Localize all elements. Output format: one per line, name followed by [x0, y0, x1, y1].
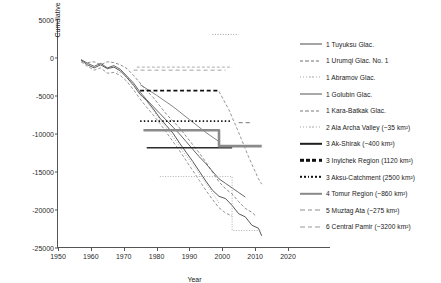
legend-swatch-icon [300, 172, 322, 182]
x-tick-mark [222, 248, 223, 251]
y-axis-title: Cumulative mass balance (mm/we/year) [54, 0, 61, 55]
legend-item-label: 5 Muztag Ata (~275 km²) [326, 207, 400, 214]
legend-item-label: 6 Central Pamir (~3200 km²) [326, 223, 411, 230]
legend-swatch-icon [300, 222, 322, 232]
y-tick-label: -5000 [36, 93, 54, 100]
legend-swatch-icon [300, 139, 322, 149]
chart-series-line [88, 62, 256, 216]
legend-item-label: 4 Tomur Region (~860 km²) [326, 190, 408, 197]
x-tick-label: 1980 [149, 253, 165, 260]
legend-item[interactable]: 1 Kara-Batkak Glac. [300, 102, 440, 119]
y-tick-mark [55, 58, 58, 59]
y-tick-label: -20000 [32, 207, 54, 214]
x-tick-label: 1950 [50, 253, 66, 260]
x-tick-label: 2020 [280, 253, 296, 260]
legend-item-label: 1 Golubin Glac. [326, 91, 372, 98]
chart-extra-path [140, 85, 219, 142]
x-tick-mark [124, 248, 125, 251]
legend-item-label: 3 Aksu-Catchment (2500 km²) [326, 174, 415, 181]
legend-item-label: 3 Ak-Shirak (~400 km²) [326, 140, 395, 147]
series-layer [58, 20, 288, 248]
x-tick-label: 1990 [182, 253, 198, 260]
y-tick-label: 5000 [38, 17, 54, 24]
legend-item[interactable]: 3 Aksu-Catchment (2500 km²) [300, 169, 440, 186]
x-tick-label: 2000 [214, 253, 230, 260]
legend-swatch-icon [300, 89, 322, 99]
legend-item-label: 1 Kara-Batkak Glac. [326, 107, 386, 114]
legend-item-label: 2 Ala Archa Valley (~35 km²) [326, 124, 410, 131]
y-tick-label: 0 [50, 55, 54, 62]
legend-item-label: 1 Tuyuksu Glac. [326, 41, 374, 48]
chart-legend: 1 Tuyuksu Glac.1 Urumqi Glac. No. 11 Abr… [300, 36, 440, 235]
legend-swatch-icon [300, 155, 322, 165]
x-axis-title: Year [58, 276, 331, 283]
y-tick-mark [55, 172, 58, 173]
legend-swatch-icon [300, 205, 322, 215]
chart-series-line [160, 177, 262, 231]
y-tick-label: -10000 [32, 131, 54, 138]
x-tick-label: 2010 [247, 253, 263, 260]
legend-item-label: 3 Inylchek Region (1120 km²) [326, 157, 413, 164]
legend-item[interactable]: 1 Urumqi Glac. No. 1 [300, 53, 440, 70]
legend-item-label: 1 Urumqi Glac. No. 1 [326, 57, 389, 64]
legend-swatch-icon [300, 72, 322, 82]
legend-swatch-icon [300, 56, 322, 66]
x-tick-mark [255, 248, 256, 251]
plot-area: 50000-5000-10000-15000-20000-25000 19501… [58, 20, 288, 248]
x-tick-mark [157, 248, 158, 251]
chart-extra-path [219, 91, 262, 184]
legend-swatch-icon [300, 122, 322, 132]
x-tick-mark [189, 248, 190, 251]
legend-swatch-icon [300, 39, 322, 49]
legend-item[interactable]: 3 Ak-Shirak (~400 km²) [300, 136, 440, 153]
legend-item-label: 1 Abramov Glac. [326, 74, 376, 81]
legend-swatch-icon [300, 106, 322, 116]
legend-item[interactable]: 2 Ala Archa Valley (~35 km²) [300, 119, 440, 136]
legend-item[interactable]: 6 Central Pamir (~3200 km²) [300, 219, 440, 236]
legend-item[interactable]: 4 Tomur Region (~860 km²) [300, 185, 440, 202]
x-tick-mark [288, 248, 289, 251]
chart-series-line [143, 130, 261, 146]
legend-item[interactable]: 5 Muztag Ata (~275 km²) [300, 202, 440, 219]
y-tick-label: -15000 [32, 169, 54, 176]
legend-item[interactable]: 1 Abramov Glac. [300, 69, 440, 86]
legend-swatch-icon [300, 189, 322, 199]
x-tick-label: 1960 [83, 253, 99, 260]
y-tick-mark [55, 134, 58, 135]
legend-item[interactable]: 1 Tuyuksu Glac. [300, 36, 440, 53]
y-tick-mark [55, 210, 58, 211]
legend-item[interactable]: 3 Inylchek Region (1120 km²) [300, 152, 440, 169]
y-tick-label: -25000 [32, 245, 54, 252]
chart-series-line [81, 62, 232, 216]
x-tick-label: 1970 [116, 253, 132, 260]
x-tick-mark [91, 248, 92, 251]
y-tick-mark [55, 96, 58, 97]
legend-item[interactable]: 1 Golubin Glac. [300, 86, 440, 103]
x-tick-mark [58, 248, 59, 251]
